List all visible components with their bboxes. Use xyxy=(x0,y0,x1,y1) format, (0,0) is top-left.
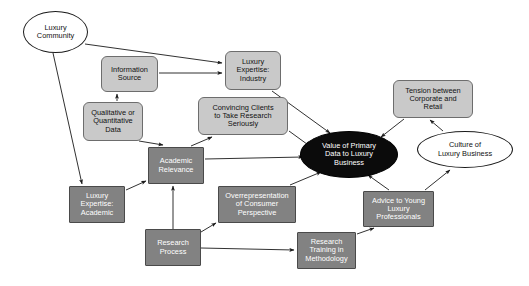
edge-overrepresentation-to-value xyxy=(290,172,321,185)
node-label-luxury-expertise-industry: Luxury Expertise: Industry xyxy=(226,58,280,83)
node-label-research-training-in-methodology: Research Training in Methodology xyxy=(298,238,355,263)
edge-research-training-to-advice xyxy=(357,228,374,234)
node-label-qualitative-or-quantitative-data: Qualitative or Quantitative Data xyxy=(84,109,142,134)
edge-advice-to-culture xyxy=(425,170,450,190)
node-research-process[interactable]: Research Process xyxy=(145,229,201,266)
edge-research-process-to-overrepresentation xyxy=(201,223,216,232)
node-label-advice-to-young-luxury-professionals: Advice to Young Luxury Professionals xyxy=(364,197,433,222)
edge-advice-to-value xyxy=(368,175,389,190)
node-convincing-clients[interactable]: Convincing Clients to Take Research Seri… xyxy=(198,97,288,135)
node-luxury-expertise-academic[interactable]: Luxury Expertise: Academic xyxy=(69,186,125,223)
node-label-value-of-primary-data: Value of Primary Data to Luxury Business xyxy=(301,142,397,167)
node-culture-of-luxury-business[interactable]: Culture of Luxury Business xyxy=(417,131,513,168)
edge-tension-to-value xyxy=(381,119,404,137)
node-value-of-primary-data[interactable]: Value of Primary Data to Luxury Business xyxy=(300,131,398,178)
node-academic-relevance[interactable]: Academic Relevance xyxy=(148,147,204,184)
node-research-training-in-methodology[interactable]: Research Training in Methodology xyxy=(297,232,356,269)
node-label-research-process: Research Process xyxy=(146,239,200,256)
node-overrepresentation-of-consumer-perspective[interactable]: Overrepresentation of Consumer Perspecti… xyxy=(218,186,296,223)
node-label-convincing-clients: Convincing Clients to Take Research Seri… xyxy=(199,104,287,129)
node-label-overrepresentation-of-consumer-perspective: Overrepresentation of Consumer Perspecti… xyxy=(219,192,295,217)
node-label-culture-of-luxury-business: Culture of Luxury Business xyxy=(418,141,512,158)
node-label-academic-relevance: Academic Relevance xyxy=(149,157,203,174)
node-label-information-source: Information Source xyxy=(102,66,157,83)
edge-research-process-to-research-training xyxy=(201,248,294,250)
edge-academic-relevance-to-convincing-clients xyxy=(191,137,212,146)
node-luxury-community[interactable]: Luxury Community xyxy=(23,11,88,53)
node-information-source[interactable]: Information Source xyxy=(101,56,158,92)
node-label-luxury-expertise-academic: Luxury Expertise: Academic xyxy=(70,192,124,217)
edge-luxury-community-to-luxury-expertise-academic xyxy=(53,53,82,184)
node-qualitative-or-quantitative-data[interactable]: Qualitative or Quantitative Data xyxy=(83,102,143,141)
node-label-luxury-community: Luxury Community xyxy=(24,24,87,41)
edge-qualitative-data-to-academic-relevance xyxy=(139,141,163,145)
edge-luxury-expertise-academic-to-academic-relevance xyxy=(126,181,146,190)
edge-culture-to-tension xyxy=(430,120,443,131)
edge-academic-relevance-to-value xyxy=(205,157,303,159)
node-tension-between-corporate-and-retail[interactable]: Tension between Corporate and Retail xyxy=(393,80,473,118)
node-luxury-expertise-industry[interactable]: Luxury Expertise: Industry xyxy=(225,51,281,90)
node-label-tension-between-corporate-and-retail: Tension between Corporate and Retail xyxy=(394,87,472,112)
node-advice-to-young-luxury-professionals[interactable]: Advice to Young Luxury Professionals xyxy=(363,191,434,227)
concept-map-canvas: Luxury CommunityInformation SourceQualit… xyxy=(0,0,529,286)
